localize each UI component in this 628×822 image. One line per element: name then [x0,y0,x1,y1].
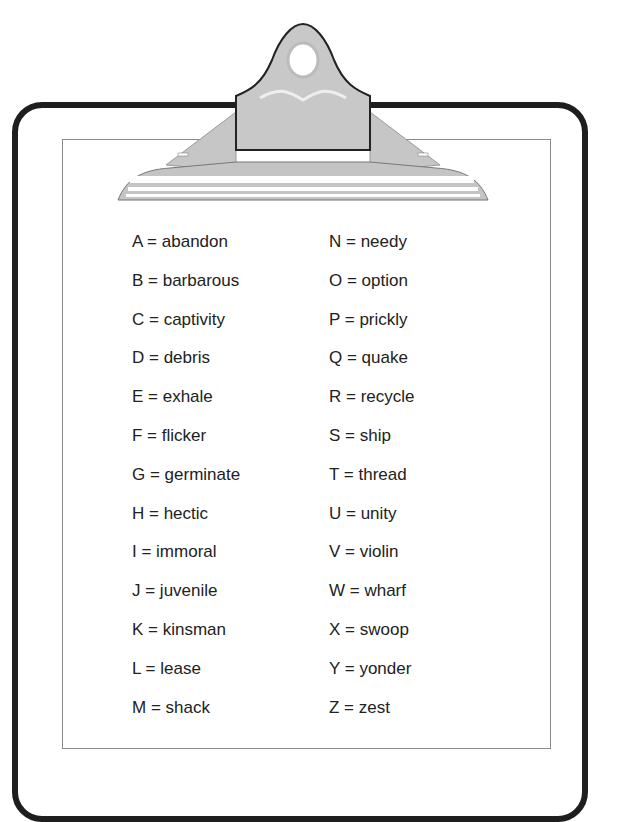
word-entry: U = unity [329,498,415,537]
word-entry: T = thread [329,459,415,498]
word-entry: X = swoop [329,614,415,653]
clipboard-clip-icon [0,0,628,210]
word-entry: B = barbarous [132,265,240,304]
word-list-left: A = abandon B = barbarous C = captivity … [132,226,240,730]
word-entry: Q = quake [329,342,415,381]
word-entry: R = recycle [329,381,415,420]
word-entry: K = kinsman [132,614,240,653]
word-entry: C = captivity [132,304,240,343]
word-entry: A = abandon [132,226,240,265]
word-entry: Y = yonder [329,653,415,692]
word-entry: E = exhale [132,381,240,420]
word-entry: W = wharf [329,575,415,614]
word-entry: G = germinate [132,459,240,498]
word-entry: S = ship [329,420,415,459]
word-entry: P = prickly [329,304,415,343]
word-entry: O = option [329,265,415,304]
word-list-right: N = needy O = option P = prickly Q = qua… [329,226,415,730]
word-entry: F = flicker [132,420,240,459]
word-entry: I = immoral [132,536,240,575]
word-entry: D = debris [132,342,240,381]
word-entry: J = juvenile [132,575,240,614]
word-entry: L = lease [132,653,240,692]
word-entry: Z = zest [329,692,415,731]
word-entry: M = shack [132,692,240,731]
word-entry: V = violin [329,536,415,575]
word-entry: N = needy [329,226,415,265]
word-entry: H = hectic [132,498,240,537]
